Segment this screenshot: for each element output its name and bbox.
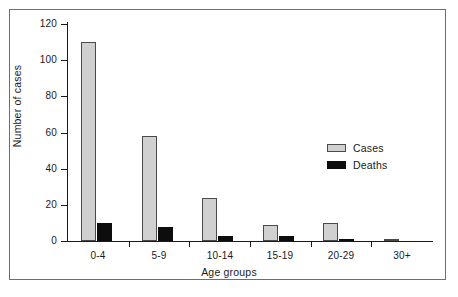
x-axis-tick-label: 0-4 [68,250,128,261]
y-axis-tick [61,169,67,170]
bar-cases-10-14 [202,198,217,241]
y-axis-tick-label: 20 [45,200,57,210]
x-axis-tick [129,242,130,247]
y-axis-tick [61,60,67,61]
bar-deaths-10-14 [218,236,233,241]
y-axis-tick-label: 120 [40,19,57,29]
x-axis-tick-label: 20-29 [311,250,371,261]
bar-deaths-15-19 [279,236,294,241]
legend-item-cases: Cases [327,139,387,156]
y-axis-tick-label: 60 [45,128,57,138]
x-axis-tick-label: 30+ [372,250,432,261]
y-axis-tick [61,205,67,206]
bar-cases-0-4 [81,42,96,241]
bar-deaths-0-4 [97,223,112,241]
chart-legend: Cases Deaths [327,139,387,173]
y-axis-tick-label: 80 [45,91,57,101]
y-axis-tick-label: 40 [45,164,57,174]
legend-item-deaths: Deaths [327,156,387,173]
bar-deaths-20-29 [339,239,354,241]
x-axis-tick [189,242,190,247]
x-axis-tick [250,242,251,247]
x-axis-tick-label: 15-19 [250,250,310,261]
legend-label-deaths: Deaths [353,159,387,171]
y-axis-tick-label: 100 [40,55,57,65]
y-axis-tick [61,96,67,97]
plot-area [68,24,432,241]
y-axis-tick [61,133,67,134]
bar-cases-15-19 [263,225,278,241]
y-axis-tick [61,241,67,242]
x-axis-tick [311,242,312,247]
chart-figure: 020406080100120 0-45-910-1415-1920-2930+… [0,0,458,297]
x-axis-title: Age groups [0,266,458,278]
bar-cases-30+ [384,239,399,241]
legend-label-cases: Cases [353,142,384,154]
legend-swatch-cases [327,144,346,152]
legend-swatch-deaths [327,161,346,169]
x-axis-tick-label: 10-14 [190,250,250,261]
bar-cases-20-29 [323,223,338,241]
y-axis-tick-label: 0 [51,236,57,246]
y-axis-tick [61,24,67,25]
bar-deaths-5-9 [158,227,173,241]
bar-cases-5-9 [142,136,157,241]
x-axis-tick-label: 5-9 [129,250,189,261]
y-axis-title: Number of cases [11,56,23,156]
x-axis-tick [371,242,372,247]
